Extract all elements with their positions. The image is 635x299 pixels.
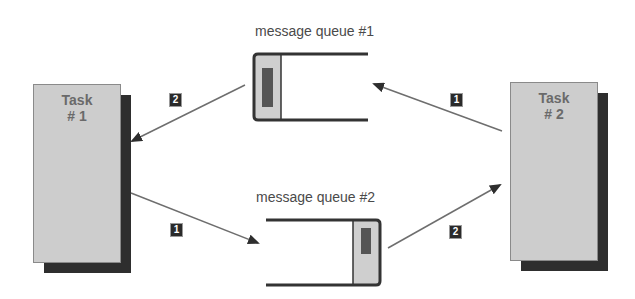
step-badge-task2-to-queue1: 1 — [450, 93, 463, 107]
queue1-shape — [254, 54, 368, 120]
step-badge-queue1-to-task1: 2 — [169, 93, 182, 107]
diagram-graphics — [0, 0, 635, 299]
arrow-task2-to-queue1 — [374, 84, 502, 131]
step-badge-task1-to-queue2: 1 — [170, 223, 183, 237]
arrow-queue2-to-task2 — [388, 185, 500, 248]
diagram-canvas: Task # 1 Task # 2 message queue #1 messa… — [0, 0, 635, 299]
queue2-message-icon — [361, 228, 371, 254]
arrow-task1-to-queue2 — [131, 193, 258, 243]
arrow-queue1-to-task1 — [132, 85, 245, 141]
queue2-shape — [266, 220, 380, 285]
step-badge-queue2-to-task2: 2 — [449, 225, 462, 239]
queue1-message-icon — [262, 68, 273, 107]
